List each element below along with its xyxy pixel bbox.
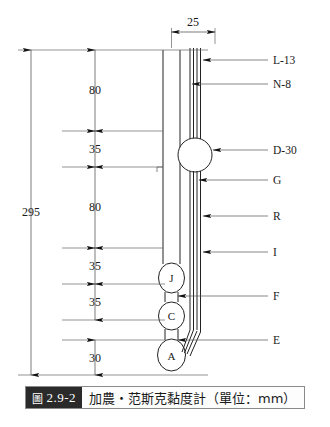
- part-label-l13: L-13: [273, 54, 296, 66]
- figure-caption-bar: 圖 2.9-2 加農・范斯克黏度計（單位：mm）: [25, 386, 305, 409]
- part-label-f: F: [273, 290, 279, 302]
- dim-label-25: 25: [187, 15, 199, 29]
- bulb-label-c: C: [168, 310, 175, 322]
- viscometer-drawing: 25 295 80 35 80: [0, 0, 330, 427]
- dim-label-chain-6: 30: [89, 351, 101, 365]
- chain-dimensions: 80 35 80 35 35 30: [89, 50, 101, 375]
- bulb-label-a: A: [168, 350, 176, 362]
- part-label-n8: N-8: [273, 78, 291, 90]
- part-label-e: E: [273, 334, 280, 346]
- figure-container: 25 295 80 35 80: [0, 0, 330, 427]
- overall-dimension: 295: [22, 50, 40, 375]
- part-label-r: R: [273, 210, 281, 222]
- dim-label-chain-5: 35: [89, 295, 101, 309]
- part-label-i: I: [273, 246, 277, 258]
- bulb-d30: [178, 138, 212, 172]
- bulb-label-j: J: [169, 272, 174, 284]
- viscometer-apparatus: [157, 48, 212, 371]
- dim-label-chain-4: 35: [89, 259, 101, 273]
- dim-label-chain-2: 35: [89, 142, 101, 156]
- part-labels: L-13 N-8 D-30 G R I F E: [178, 54, 297, 346]
- part-label-d30: D-30: [273, 144, 297, 156]
- figure-glyph-icon: 圖: [32, 390, 44, 406]
- dim-label-chain-3: 80: [89, 200, 101, 214]
- figure-number: 2.9-2: [47, 390, 77, 406]
- figure-caption-text: 加農・范斯克黏度計（單位：mm）: [82, 387, 303, 408]
- top-width-dimension: 25: [172, 15, 216, 48]
- part-label-g: G: [273, 174, 281, 186]
- dim-label-295: 295: [22, 205, 40, 219]
- figure-number-tag: 圖 2.9-2: [26, 387, 82, 408]
- dim-label-chain-1: 80: [89, 83, 101, 97]
